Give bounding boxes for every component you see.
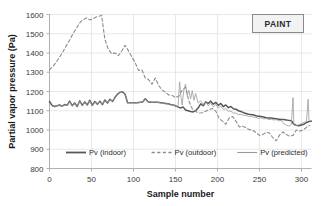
x-tick-label: 100 [127,175,141,184]
legend-label-predicted: Pv (predicted) [260,148,308,157]
y-tick-label: 1000 [26,126,44,135]
y-tick-label: 800 [30,165,44,174]
x-tick-label: 250 [253,175,267,184]
x-tick-label: 0 [47,175,52,184]
x-tick-label: 50 [87,175,96,184]
y-axis-title: Partial vapor pressure (Pa) [7,34,17,149]
series-line-indoor [50,92,312,126]
y-tick-label: 900 [30,145,44,154]
y-tick-label: 1400 [26,49,44,58]
paint-badge-label: PAINT [265,19,292,29]
x-tick-label: 200 [211,175,225,184]
x-axis-title: Sample number [147,189,215,199]
y-tick-label: 1600 [26,11,44,20]
x-tick-label: 300 [295,175,309,184]
y-tick-label: 1500 [26,30,44,39]
x-tick-label: 150 [169,175,183,184]
y-tick-label: 1100 [26,107,44,116]
series-line-predicted [50,82,312,126]
paint-badge: PAINT [252,14,304,33]
legend-label-outdoor: Pv (outdoor) [175,148,217,157]
y-tick-label: 1200 [26,88,44,97]
y-tick-label: 1300 [26,68,44,77]
legend-label-indoor: Pv (indoor) [89,148,127,157]
chart-figure: 8009001000110012001300140015001600050100… [0,0,322,206]
